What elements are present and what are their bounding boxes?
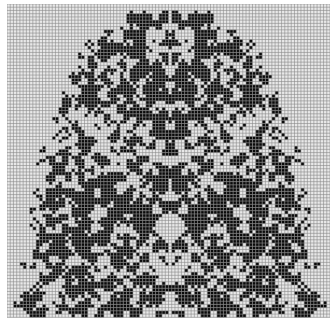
grid-canvas <box>7 4 330 318</box>
automaton-grid <box>7 4 330 318</box>
